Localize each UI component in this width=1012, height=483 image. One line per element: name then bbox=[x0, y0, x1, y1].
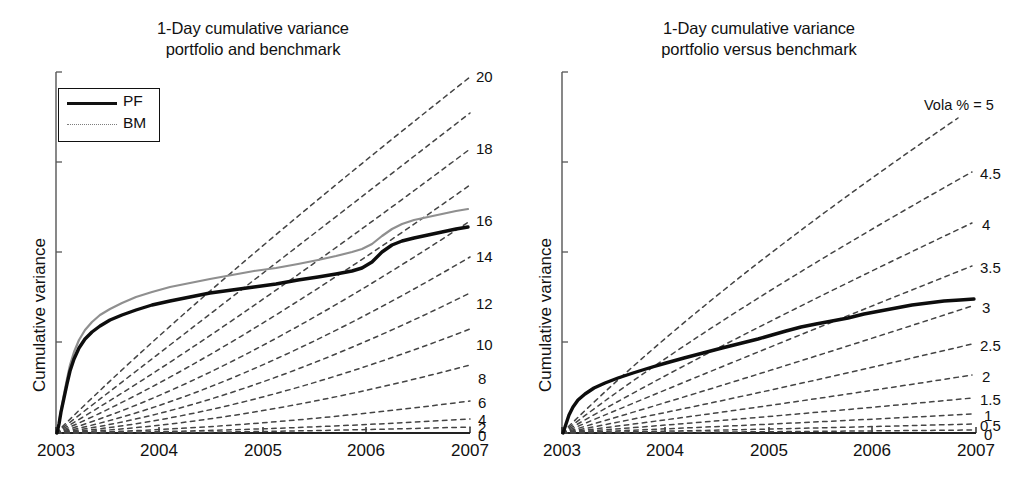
left-xtick-2006: 2006 bbox=[336, 441, 396, 461]
right-xtick-2004: 2004 bbox=[635, 441, 695, 461]
legend-label-bm: BM bbox=[123, 114, 146, 132]
right-rlabel-1p5: 1.5 bbox=[980, 391, 1001, 408]
legend-item-bm: BM bbox=[67, 114, 159, 136]
right-vola-annotation: Vola % = 5 bbox=[924, 97, 994, 113]
left-rlabel-18: 18 bbox=[476, 140, 493, 157]
left-xtick-2004: 2004 bbox=[129, 441, 189, 461]
right-xtick-2005: 2005 bbox=[739, 441, 799, 461]
left-rlabel-16: 16 bbox=[476, 212, 493, 229]
left-xtick-2005: 2005 bbox=[233, 441, 293, 461]
right-plot-area bbox=[506, 0, 1012, 483]
left-plot-area bbox=[0, 0, 506, 483]
right-xtick-2006: 2006 bbox=[842, 441, 902, 461]
panel-right: 1-Day cumulative variance portfolio vers… bbox=[506, 0, 1012, 483]
left-rlabel-6: 6 bbox=[478, 394, 486, 411]
legend-key-bm-icon bbox=[67, 124, 117, 125]
legend-item-pf: PF bbox=[67, 92, 159, 114]
left-rlabel-10: 10 bbox=[476, 336, 493, 353]
left-series-bm bbox=[57, 209, 468, 433]
right-xtick-2003: 2003 bbox=[532, 441, 592, 461]
right-rlabel-2: 2 bbox=[982, 368, 990, 385]
figure-root: 1-Day cumulative variance portfolio and … bbox=[0, 0, 1012, 483]
legend-label-pf: PF bbox=[123, 92, 143, 110]
legend-key-pf-icon bbox=[67, 102, 117, 105]
left-legend: PF BM bbox=[58, 88, 160, 142]
left-rlabel-12: 12 bbox=[476, 295, 493, 312]
right-series-tracking-error bbox=[563, 299, 974, 433]
right-rlabel-3: 3 bbox=[982, 299, 990, 316]
right-rlabel-3p5: 3.5 bbox=[980, 259, 1001, 276]
panel-left: 1-Day cumulative variance portfolio and … bbox=[0, 0, 506, 483]
left-xtick-2003: 2003 bbox=[26, 441, 86, 461]
right-rlabel-2p5: 2.5 bbox=[980, 337, 1001, 354]
right-reference-lines bbox=[562, 118, 972, 433]
right-rlabel-4: 4 bbox=[982, 216, 990, 233]
right-rlabel-4p5: 4.5 bbox=[980, 165, 1001, 182]
left-xtick-2007: 2007 bbox=[440, 441, 500, 461]
left-series-pf bbox=[57, 227, 468, 433]
right-y-ticks bbox=[562, 72, 568, 433]
right-xtick-2007: 2007 bbox=[946, 441, 1006, 461]
left-rlabel-14: 14 bbox=[476, 248, 493, 265]
left-rlabel-20: 20 bbox=[476, 68, 493, 85]
left-rlabel-8: 8 bbox=[478, 370, 486, 387]
